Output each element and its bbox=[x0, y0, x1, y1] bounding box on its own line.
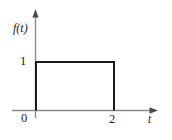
y-tick-label-1: 1 bbox=[20, 55, 26, 68]
origin-label: 0 bbox=[21, 112, 27, 125]
figure-container: f(t) t 1 0 2 bbox=[0, 0, 172, 140]
pulse-curve bbox=[36, 62, 114, 111]
y-axis-label: f(t) bbox=[13, 22, 28, 34]
x-tick-label-2: 2 bbox=[109, 113, 115, 126]
arrow-up-icon bbox=[32, 9, 38, 18]
x-axis-label: t bbox=[148, 114, 151, 126]
